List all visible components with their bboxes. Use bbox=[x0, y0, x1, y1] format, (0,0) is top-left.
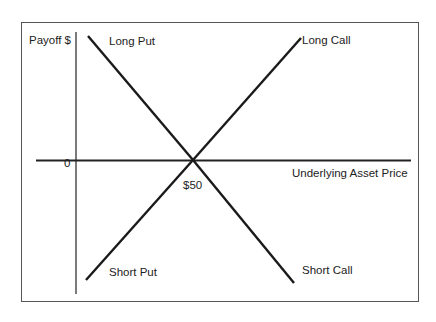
short-call-label: Short Call bbox=[302, 264, 353, 276]
short-put-label: Short Put bbox=[109, 266, 158, 278]
y-axis-label: Payoff $ bbox=[29, 34, 72, 46]
diagram-frame bbox=[22, 23, 419, 302]
long-put-label: Long Put bbox=[109, 35, 156, 47]
x-axis-label: Underlying Asset Price bbox=[292, 167, 408, 179]
long-call-label: Long Call bbox=[302, 34, 351, 46]
zero-label: 0 bbox=[64, 157, 70, 169]
payoff-diagram: Payoff $ Long Put Long Call 0 Underlying… bbox=[0, 0, 436, 322]
strike-price-label: $50 bbox=[183, 179, 202, 191]
